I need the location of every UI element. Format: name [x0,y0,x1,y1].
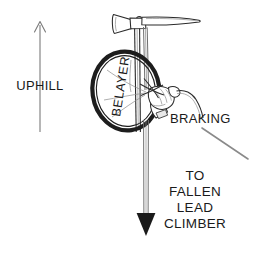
target-label-line-4: CLIMBER [164,216,226,231]
target-label-line-2: FALLEN [169,184,221,199]
belay-diagram-svg: BELAYER [0,0,262,253]
diagram-canvas: BELAYER [0,0,262,253]
target-label-group: TO FALLEN LEAD CLIMBER [164,168,226,231]
arrow-up-icon [35,22,46,133]
arrow-down-icon [137,120,156,236]
target-label-line-3: LEAD [177,200,213,215]
uphill-label: UPHILL [16,78,63,93]
leader-line-icon [202,128,248,159]
belayer-label: BELAYER [109,55,132,117]
braking-label: BRAKING [170,111,231,126]
target-label-line-1: TO [185,168,204,183]
